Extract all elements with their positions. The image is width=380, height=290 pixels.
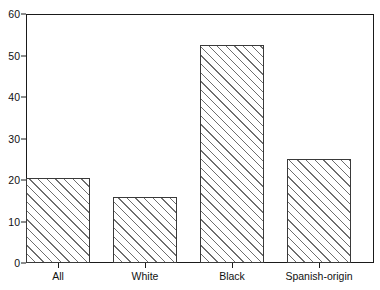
x-tick-mark [319,263,320,268]
y-tick-mark [21,138,26,139]
y-tick-label: 20 [8,175,20,186]
y-tick-mark [21,14,26,15]
y-tick-label: 50 [8,50,20,61]
bar [113,197,177,263]
y-tick-label: 10 [8,216,20,227]
x-tick-mark [145,263,146,268]
x-tick-label: Spanish-origin [285,271,352,282]
y-tick-mark [21,263,26,264]
y-tick-mark [21,180,26,181]
x-tick-label: All [52,271,64,282]
y-tick-label: 30 [8,133,20,144]
y-axis: 0102030405060 [0,0,26,290]
x-tick-mark [58,263,59,268]
x-tick-mark [232,263,233,268]
bar-chart: 0102030405060 AllWhiteBlackSpanish-origi… [0,0,380,290]
bar [26,178,90,263]
x-tick-label: White [132,271,159,282]
bars-layer [26,14,374,263]
y-tick-label: 40 [8,92,20,103]
y-tick-mark [21,221,26,222]
bar [200,45,264,263]
y-tick-label: 0 [14,258,20,269]
y-tick-label: 60 [8,9,20,20]
y-tick-mark [21,55,26,56]
y-tick-mark [21,97,26,98]
bar [287,159,351,263]
x-tick-label: Black [219,271,245,282]
